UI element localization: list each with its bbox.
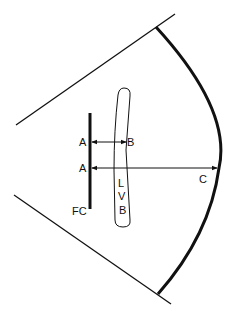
label-b-lvb: B [119,204,126,216]
label-c: C [199,173,207,185]
label-fc: FC [72,205,87,217]
lower-boundary-line [14,195,171,304]
label-l: L [118,177,124,189]
sector-arc [156,27,221,294]
label-a-upper: A [79,136,87,148]
sector-diagram: A B A C L V B FC [0,0,228,322]
label-b: B [127,136,134,148]
label-v: V [118,190,126,202]
label-a-lower: A [79,162,87,174]
upper-boundary-line [16,14,175,125]
